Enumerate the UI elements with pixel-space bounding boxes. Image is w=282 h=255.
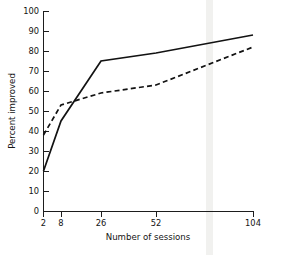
series-line-solid	[44, 35, 254, 171]
x-tick-label-26: 26	[96, 218, 107, 228]
y-tick-label-100: 100	[23, 6, 39, 16]
line-chart: 100 90 80 70 60 50 40 30 20 10 0 2 8 26 …	[0, 0, 282, 255]
y-tick-label-40: 40	[28, 126, 39, 136]
y-axis-ticks	[44, 11, 50, 211]
x-axis-title: Number of sessions	[106, 232, 191, 242]
y-tick-label-60: 60	[28, 86, 39, 96]
x-tick-label-52: 52	[151, 218, 162, 228]
y-tick-label-70: 70	[28, 66, 39, 76]
series-line-dashed	[44, 47, 254, 135]
x-tick-label-104: 104	[245, 218, 261, 228]
y-axis-title: Percent improved	[7, 73, 17, 149]
y-tick-label-30: 30	[28, 146, 39, 156]
chart-container: 100 90 80 70 60 50 40 30 20 10 0 2 8 26 …	[0, 0, 282, 255]
x-tick-label-8: 8	[58, 218, 63, 228]
x-axis-ticks	[44, 212, 254, 218]
y-tick-label-80: 80	[28, 46, 39, 56]
scan-artifact-band	[206, 0, 213, 255]
y-tick-label-20: 20	[28, 166, 39, 176]
y-tick-label-90: 90	[28, 26, 39, 36]
y-tick-label-50: 50	[28, 106, 39, 116]
y-tick-label-10: 10	[28, 186, 39, 196]
y-tick-label-0: 0	[34, 206, 39, 216]
x-tick-label-2: 2	[41, 218, 46, 228]
